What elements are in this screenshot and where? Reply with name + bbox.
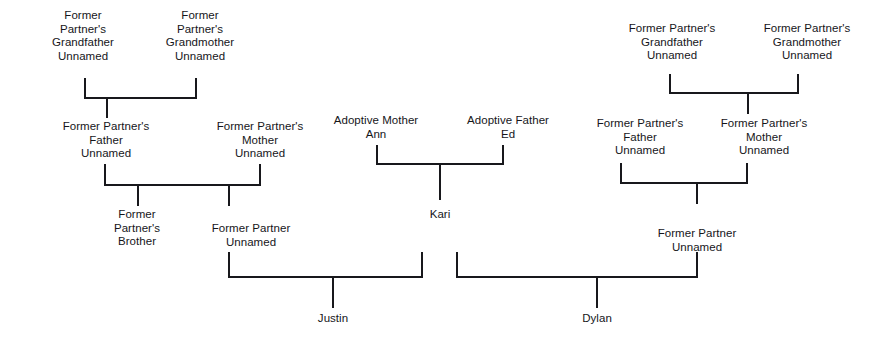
connector-adoptive-father-stem bbox=[502, 145, 504, 165]
connector-left-grandparents-bar bbox=[84, 97, 197, 99]
node-justin: Justin bbox=[292, 312, 374, 326]
node-right-grandfather: Former Partner's Grandfather Unnamed bbox=[608, 22, 736, 63]
connector-right-gf-stem bbox=[669, 74, 671, 94]
connector-to-dylan bbox=[596, 276, 598, 308]
connector-to-justin bbox=[332, 276, 334, 308]
node-left-mother: Former Partner's Mother Unnamed bbox=[196, 120, 324, 161]
connector-justin-bar bbox=[228, 276, 423, 278]
node-left-former-partner: Former Partner Unnamed bbox=[186, 222, 316, 249]
connector-left-to-former-partner bbox=[228, 184, 230, 206]
node-left-grandfather: Former Partner's Grandfather Unnamed bbox=[30, 9, 136, 63]
connector-dylan-parent-left-stem bbox=[456, 252, 458, 278]
connector-left-gf-stem bbox=[84, 78, 86, 99]
connector-left-to-father bbox=[106, 97, 108, 118]
connector-right-to-former-partner bbox=[696, 182, 698, 204]
node-adoptive-mother: Adoptive Mother Ann bbox=[318, 114, 434, 141]
connector-right-father-stem bbox=[620, 163, 622, 184]
node-dylan: Dylan bbox=[556, 312, 638, 326]
connector-left-to-brother bbox=[137, 184, 139, 206]
connector-dylan-parent-right-stem bbox=[696, 252, 698, 278]
connector-right-gm-stem bbox=[797, 74, 799, 94]
node-left-brother: Former Partner's Brother bbox=[88, 208, 186, 249]
connector-left-mother-stem bbox=[259, 164, 261, 186]
node-kari: Kari bbox=[400, 208, 480, 222]
connector-justin-parent-right-stem bbox=[421, 252, 423, 278]
connector-adoptive-to-kari bbox=[439, 163, 441, 200]
connector-left-father-stem bbox=[104, 164, 106, 186]
connector-right-mother-stem bbox=[746, 163, 748, 184]
connector-right-grandparents-bar bbox=[669, 92, 799, 94]
node-right-former-partner: Former Partner Unnamed bbox=[632, 227, 762, 254]
node-adoptive-father: Adoptive Father Ed bbox=[452, 114, 564, 141]
connector-left-parents-bar bbox=[104, 184, 261, 186]
family-tree-diagram: Former Partner's Grandfather Unnamed For… bbox=[0, 0, 880, 349]
connector-justin-parent-left-stem bbox=[228, 252, 230, 278]
connector-right-parents-bar bbox=[620, 182, 748, 184]
node-right-grandmother: Former Partner's Grandmother Unnamed bbox=[742, 22, 872, 63]
connector-right-to-mother bbox=[747, 92, 749, 114]
connector-dylan-bar bbox=[456, 276, 698, 278]
node-left-father: Former Partner's Father Unnamed bbox=[42, 120, 170, 161]
node-right-mother: Former Partner's Mother Unnamed bbox=[700, 117, 828, 158]
node-right-father: Former Partner's Father Unnamed bbox=[576, 117, 704, 158]
connector-adoptive-mother-stem bbox=[376, 145, 378, 165]
connector-left-gm-stem bbox=[195, 78, 197, 99]
node-left-grandmother: Former Partner's Grandmother Unnamed bbox=[145, 9, 255, 63]
